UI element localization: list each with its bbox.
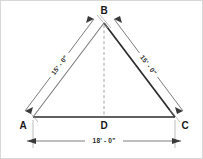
triangle-edge-bc <box>104 23 175 117</box>
vertex-label-b: B <box>100 5 107 16</box>
vertex-label-c: C <box>181 120 188 131</box>
dimension-right-label-group: 15' - 0" <box>135 50 161 80</box>
vertex-label-a: A <box>19 120 26 131</box>
triangle-edge-ab <box>33 23 104 117</box>
vertex-label-d: D <box>100 120 107 131</box>
dimension-left-ext-b <box>97 15 108 28</box>
dimension-right-arrow-end <box>175 107 183 114</box>
dimension-left-label-group: 15' - 0" <box>46 50 72 80</box>
dimension-base-arrow-left <box>27 138 36 144</box>
dimension-right-arrow-start <box>114 16 122 23</box>
dimension-left-side: 15' - 0" <box>25 15 108 122</box>
technical-drawing-canvas: 15' - 0" 15' - 0" 18' - 0" <box>0 0 203 159</box>
triangle-dimension-diagram: 15' - 0" 15' - 0" 18' - 0" <box>1 1 203 159</box>
dimension-base-arrow-right <box>172 138 181 144</box>
dimension-left-arrow-start <box>25 107 33 114</box>
dimension-left-arrow-end <box>86 16 94 23</box>
dimension-base-label: 18' - 0" <box>93 137 116 144</box>
dimension-right-side: 15' - 0" <box>100 15 183 122</box>
